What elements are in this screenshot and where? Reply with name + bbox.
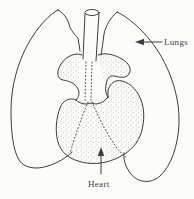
- left-lung-inner-edge: [58, 10, 80, 51]
- outline-ink: [11, 10, 179, 182]
- trachea-left-edge: [83, 14, 85, 60]
- lungs-label: Lungs: [164, 37, 188, 47]
- trachea-right-edge: [96, 13, 99, 61]
- lungs-arrowhead-icon: [135, 39, 144, 45]
- heart-label: Heart: [88, 179, 110, 189]
- trachea-opening: [85, 10, 99, 16]
- great-vessels-left: [58, 54, 82, 100]
- trachea-hidden-left: [85, 62, 86, 100]
- trachea-hidden-right: [91, 62, 92, 100]
- anatomy-figure: Lungs Heart: [0, 0, 194, 199]
- right-lung-inner-edge: [101, 12, 117, 55]
- lungs-heart-diagram: Lungs Heart: [0, 0, 194, 199]
